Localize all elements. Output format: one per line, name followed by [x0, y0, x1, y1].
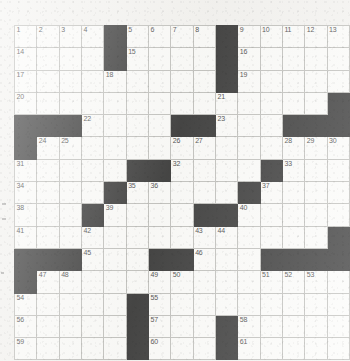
grid-letter-cell[interactable]: [282, 226, 304, 248]
grid-letter-cell[interactable]: [81, 70, 103, 92]
grid-letter-cell[interactable]: 30: [327, 137, 349, 159]
grid-letter-cell[interactable]: [59, 182, 81, 204]
grid-letter-cell[interactable]: [327, 293, 349, 315]
grid-letter-cell[interactable]: [260, 92, 282, 114]
grid-letter-cell[interactable]: 31: [15, 159, 37, 181]
grid-letter-cell[interactable]: [148, 204, 170, 226]
grid-letter-cell[interactable]: 60: [148, 338, 170, 360]
grid-letter-cell[interactable]: [148, 115, 170, 137]
grid-letter-cell[interactable]: [282, 92, 304, 114]
grid-letter-cell[interactable]: [104, 271, 126, 293]
grid-letter-cell[interactable]: [327, 315, 349, 337]
grid-letter-cell[interactable]: 52: [282, 271, 304, 293]
grid-letter-cell[interactable]: [126, 226, 148, 248]
grid-letter-cell[interactable]: [327, 48, 349, 70]
grid-letter-cell[interactable]: 49: [148, 271, 170, 293]
grid-letter-cell[interactable]: [171, 70, 193, 92]
grid-letter-cell[interactable]: [282, 182, 304, 204]
grid-letter-cell[interactable]: 50: [171, 271, 193, 293]
grid-letter-cell[interactable]: [104, 338, 126, 360]
grid-letter-cell[interactable]: [193, 315, 215, 337]
grid-letter-cell[interactable]: 22: [81, 115, 103, 137]
grid-letter-cell[interactable]: [59, 226, 81, 248]
grid-letter-cell[interactable]: 3: [59, 26, 81, 48]
grid-letter-cell[interactable]: [193, 92, 215, 114]
grid-letter-cell[interactable]: 34: [15, 182, 37, 204]
grid-letter-cell[interactable]: [193, 293, 215, 315]
grid-letter-cell[interactable]: [104, 137, 126, 159]
grid-letter-cell[interactable]: [37, 226, 59, 248]
grid-letter-cell[interactable]: 18: [104, 70, 126, 92]
grid-letter-cell[interactable]: 19: [238, 70, 260, 92]
grid-letter-cell[interactable]: [193, 271, 215, 293]
grid-letter-cell[interactable]: 33: [282, 159, 304, 181]
grid-letter-cell[interactable]: [327, 271, 349, 293]
grid-letter-cell[interactable]: [171, 204, 193, 226]
grid-letter-cell[interactable]: [215, 137, 237, 159]
grid-letter-cell[interactable]: 47: [37, 271, 59, 293]
grid-letter-cell[interactable]: 46: [193, 248, 215, 270]
grid-letter-cell[interactable]: [238, 137, 260, 159]
grid-letter-cell[interactable]: 58: [238, 315, 260, 337]
grid-letter-cell[interactable]: [148, 92, 170, 114]
grid-letter-cell[interactable]: [37, 48, 59, 70]
grid-letter-cell[interactable]: 13: [327, 26, 349, 48]
grid-letter-cell[interactable]: 43: [193, 226, 215, 248]
grid-letter-cell[interactable]: [104, 92, 126, 114]
grid-letter-cell[interactable]: [171, 338, 193, 360]
grid-letter-cell[interactable]: [81, 137, 103, 159]
grid-letter-cell[interactable]: [215, 182, 237, 204]
grid-letter-cell[interactable]: [37, 293, 59, 315]
grid-letter-cell[interactable]: [282, 204, 304, 226]
grid-letter-cell[interactable]: [81, 271, 103, 293]
grid-letter-cell[interactable]: [81, 293, 103, 315]
grid-letter-cell[interactable]: [126, 70, 148, 92]
grid-letter-cell[interactable]: [193, 70, 215, 92]
grid-letter-cell[interactable]: 27: [193, 137, 215, 159]
grid-letter-cell[interactable]: [171, 182, 193, 204]
grid-letter-cell[interactable]: 38: [15, 204, 37, 226]
grid-letter-cell[interactable]: [327, 204, 349, 226]
grid-letter-cell[interactable]: [260, 226, 282, 248]
grid-letter-cell[interactable]: [305, 226, 327, 248]
grid-letter-cell[interactable]: [238, 115, 260, 137]
grid-letter-cell[interactable]: [81, 48, 103, 70]
grid-letter-cell[interactable]: [104, 159, 126, 181]
grid-letter-cell[interactable]: [59, 48, 81, 70]
grid-letter-cell[interactable]: [37, 70, 59, 92]
grid-letter-cell[interactable]: [238, 92, 260, 114]
grid-letter-cell[interactable]: [282, 48, 304, 70]
grid-letter-cell[interactable]: [327, 182, 349, 204]
grid-letter-cell[interactable]: [37, 159, 59, 181]
grid-letter-cell[interactable]: [215, 271, 237, 293]
grid-letter-cell[interactable]: [238, 159, 260, 181]
grid-letter-cell[interactable]: [282, 70, 304, 92]
grid-letter-cell[interactable]: [59, 70, 81, 92]
grid-letter-cell[interactable]: [238, 226, 260, 248]
grid-letter-cell[interactable]: [260, 115, 282, 137]
grid-letter-cell[interactable]: [305, 293, 327, 315]
grid-letter-cell[interactable]: 11: [282, 26, 304, 48]
grid-letter-cell[interactable]: [238, 293, 260, 315]
grid-letter-cell[interactable]: [148, 70, 170, 92]
grid-letter-cell[interactable]: [282, 315, 304, 337]
grid-letter-cell[interactable]: [282, 293, 304, 315]
grid-letter-cell[interactable]: [260, 204, 282, 226]
grid-letter-cell[interactable]: [215, 248, 237, 270]
grid-letter-cell[interactable]: [327, 70, 349, 92]
grid-letter-cell[interactable]: [193, 48, 215, 70]
grid-letter-cell[interactable]: 61: [238, 338, 260, 360]
grid-letter-cell[interactable]: [104, 248, 126, 270]
grid-letter-cell[interactable]: [126, 271, 148, 293]
grid-letter-cell[interactable]: [59, 338, 81, 360]
grid-letter-cell[interactable]: 12: [305, 26, 327, 48]
grid-letter-cell[interactable]: [81, 338, 103, 360]
grid-letter-cell[interactable]: [126, 115, 148, 137]
grid-letter-cell[interactable]: 39: [104, 204, 126, 226]
grid-letter-cell[interactable]: [171, 226, 193, 248]
grid-letter-cell[interactable]: 57: [148, 315, 170, 337]
grid-letter-cell[interactable]: [260, 338, 282, 360]
grid-letter-cell[interactable]: [305, 92, 327, 114]
grid-letter-cell[interactable]: 6: [148, 26, 170, 48]
grid-letter-cell[interactable]: [327, 338, 349, 360]
